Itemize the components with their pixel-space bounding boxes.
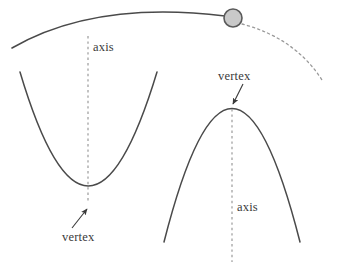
figure-canvas — [0, 0, 353, 268]
projectile-ball-icon — [224, 9, 242, 27]
axis-label-left: axis — [93, 41, 114, 54]
projectile-trajectory-solid-path — [12, 12, 225, 48]
projectile-trajectory-dashed-path — [242, 24, 322, 80]
parabola-figure: axis vertex vertex axis — [0, 0, 353, 268]
vertex-label-left: vertex — [62, 231, 94, 244]
vertex-left-pointer-arrow — [72, 209, 87, 228]
vertex-right-pointer-arrow — [233, 84, 243, 104]
vertex-label-right: vertex — [218, 70, 250, 83]
axis-label-right: axis — [237, 201, 258, 214]
